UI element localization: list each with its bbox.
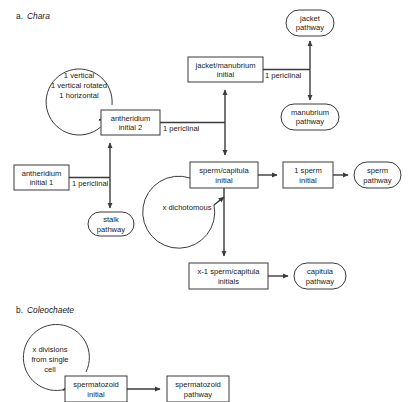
node-antheridium-initial-2[interactable]: antheridium initial 2: [101, 110, 160, 135]
node-sperm-capitula-initial[interactable]: sperm/capitula initial: [190, 162, 258, 188]
figure-canvas: a.Chara 1 vertical 1 vertical rotated 1 …: [0, 0, 414, 402]
node-antheridium-initial-1[interactable]: antheridium initial 1: [14, 165, 69, 190]
edge-jacket-manubrium-to-split: 1 periclinal: [263, 41, 310, 100]
node-spermatozoid-pathway[interactable]: spermatozoid pathway: [167, 376, 229, 402]
node-spermatozoid-initial-label-2: initial: [87, 390, 105, 399]
edge-label-ai1-to-ai2: 1 periclinal: [72, 179, 109, 188]
node-spermatozoid-initial[interactable]: spermatozoid initial: [65, 376, 127, 402]
node-stalk-pathway-label-2: pathway: [97, 225, 125, 234]
node-antheridium-initial-1-label-2: initial 1: [30, 178, 54, 187]
node-jacket-manubrium-initial[interactable]: jacket/manubrium initial: [188, 57, 263, 82]
division-loop-coleochaete-label-2: from single: [31, 355, 68, 364]
pathway-diagram: a.Chara 1 vertical 1 vertical rotated 1 …: [0, 0, 414, 402]
node-sperm-capitula-initial-label-2: initial: [215, 176, 233, 185]
node-manubrium-pathway[interactable]: manubrium pathway: [281, 104, 339, 130]
node-manubrium-pathway-label-2: pathway: [296, 117, 324, 126]
division-loop-coleochaete-label-1: x divisions: [32, 345, 67, 354]
node-antheridium-initial-2-label-2: initial 2: [119, 123, 143, 132]
node-x-minus-1-label-2: initials: [218, 277, 239, 286]
division-loop-chara-label-2: 1 vertical rotated: [51, 81, 107, 90]
node-jacket-pathway[interactable]: jacket pathway: [286, 10, 334, 36]
node-spermatozoid-pathway-label-2: pathway: [184, 390, 212, 399]
node-stalk-pathway-label-1: stalk: [103, 215, 119, 224]
node-capitula-pathway-label-2: pathway: [306, 277, 334, 286]
division-loop-coleochaete-label-3: cell: [44, 365, 56, 374]
dichotomous-loop-label: x dichotomous: [163, 203, 212, 212]
node-sperm-pathway[interactable]: sperm pathway: [354, 162, 401, 188]
edge-label-ai2-to-branch: 1 periclinal: [163, 124, 200, 133]
section-b-marker: b.: [16, 305, 23, 315]
node-one-sperm-initial[interactable]: 1 sperm initial: [283, 162, 333, 188]
division-loop-chara-label-1: 1 vertical: [64, 71, 95, 80]
division-loop-chara-label-3: 1 horizontal: [59, 91, 99, 100]
node-spermatozoid-initial-label-1: spermatozoid: [73, 380, 119, 389]
edge-label-jm-to-branch: 1 periclinal: [265, 71, 302, 80]
node-sperm-pathway-label-1: sperm: [367, 166, 388, 175]
node-manubrium-pathway-label-1: manubrium: [291, 108, 329, 117]
cropped-caption-column: [399, 92, 414, 297]
dichotomous-loop-arrow: [214, 197, 224, 205]
section-a-marker: a.: [16, 11, 23, 21]
section-b-title: b.Coleochaete: [16, 305, 74, 315]
node-x-minus-1-sperm-capitula-initials[interactable]: x-1 sperm/capitula initials: [189, 263, 268, 289]
edge-antheridium-initial-1-to-split: 1 periclinal: [69, 143, 110, 208]
node-one-sperm-initial-label-1: 1 sperm: [294, 166, 321, 175]
node-antheridium-initial-1-label-1: antheridium: [22, 169, 62, 178]
node-capitula-pathway-label-1: capitula: [307, 267, 334, 276]
node-stalk-pathway[interactable]: stalk pathway: [88, 212, 134, 236]
node-jacket-pathway-label-1: jacket: [299, 14, 321, 23]
node-capitula-pathway[interactable]: capitula pathway: [294, 263, 346, 289]
node-jacket-pathway-label-2: pathway: [296, 23, 324, 32]
node-jacket-manubrium-initial-label-2: initial: [217, 70, 235, 79]
node-sperm-pathway-label-2: pathway: [363, 176, 391, 185]
node-sperm-capitula-initial-label-1: sperm/capitula: [199, 166, 249, 175]
node-spermatozoid-pathway-label-1: spermatozoid: [175, 380, 221, 389]
edge-antheridium-initial-2-to-split: 1 periclinal: [160, 90, 225, 155]
node-jacket-manubrium-initial-label-1: jacket/manubrium: [195, 61, 256, 70]
node-x-minus-1-label-1: x-1 sperm/capitula: [197, 267, 260, 276]
section-b-organism: Coleochaete: [27, 305, 74, 315]
node-antheridium-initial-2-label-1: antheridium: [111, 114, 151, 123]
section-a-title: a.Chara: [16, 11, 50, 21]
node-one-sperm-initial-label-2: initial: [299, 176, 317, 185]
section-a-organism: Chara: [27, 11, 50, 21]
